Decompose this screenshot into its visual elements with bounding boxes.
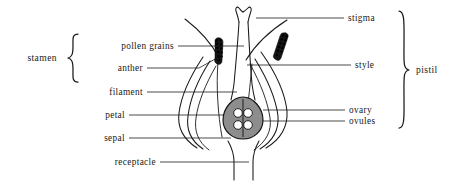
- label-anther: anther: [118, 63, 144, 73]
- ovule-right-lower: [244, 121, 253, 130]
- ovule-right-upper: [244, 109, 253, 118]
- label-style: style: [355, 60, 374, 70]
- leader-lines-right: [247, 18, 351, 121]
- anther-right: [273, 33, 288, 61]
- flower-drawing: [179, 7, 289, 180]
- filament-left: [217, 62, 222, 137]
- group-label-stamen: stamen: [27, 52, 57, 63]
- receptacle: [228, 141, 259, 180]
- label-filament: filament: [109, 87, 143, 97]
- label-ovules: ovules: [349, 116, 375, 126]
- labels-right: stigma style ovary ovules: [348, 13, 375, 126]
- style-left-edge: [231, 22, 239, 100]
- group-label-pistil: pistil: [416, 64, 438, 75]
- stigma: [236, 7, 252, 22]
- label-pollen-grains: pollen grains: [121, 41, 174, 51]
- label-stigma: stigma: [348, 13, 375, 23]
- label-group-pistil: pistil: [416, 64, 438, 75]
- ovule-left-lower: [234, 121, 243, 130]
- ovary: [223, 97, 263, 139]
- petal-left-inner: [196, 66, 216, 150]
- flower-anatomy-figure: stamen pistil pollen grains anther filam…: [0, 0, 457, 192]
- petal-right-outer: [255, 59, 278, 149]
- brace-pistil: [399, 11, 409, 128]
- brace-stamen: [68, 34, 78, 82]
- label-sepal: sepal: [104, 133, 125, 143]
- anther-left: [215, 38, 223, 65]
- flower-diagram-svg: stamen pistil pollen grains anther filam…: [0, 0, 457, 192]
- label-ovary: ovary: [349, 105, 372, 115]
- petal-tip-upper-left: [185, 19, 219, 58]
- label-receptacle: receptacle: [115, 157, 156, 167]
- ovule-left-upper: [234, 109, 243, 118]
- labels-left: pollen grains anther filament petal sepa…: [104, 41, 174, 167]
- label-group-stamen: stamen: [27, 52, 57, 63]
- style-right-edge: [248, 22, 255, 100]
- label-petal: petal: [105, 110, 125, 120]
